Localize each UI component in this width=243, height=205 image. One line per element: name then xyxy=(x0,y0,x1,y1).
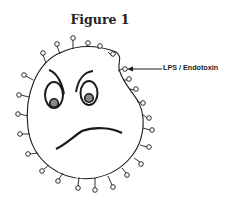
surface-spikes xyxy=(16,36,155,193)
frown-mouth xyxy=(56,128,122,149)
left-pupil xyxy=(50,99,59,108)
face xyxy=(45,70,122,149)
bacterium-diagram xyxy=(0,0,243,205)
annotation-arrow xyxy=(127,67,162,72)
arrow-left-icon xyxy=(127,67,133,72)
right-pupil xyxy=(85,94,94,103)
lps-endotoxin-label: LPS / Endotoxin xyxy=(163,63,218,72)
